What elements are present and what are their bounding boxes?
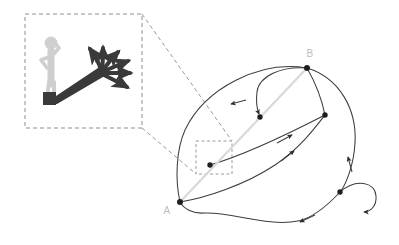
graph-edges [177,67,376,223]
edge-n4-self-loop [340,183,376,212]
edge-n4-A-bottom-arrow [300,215,315,222]
edge-B-A-upper-arrow [231,100,246,104]
shadow-foot-block [43,92,56,105]
edge-A-n3-arrow [281,151,294,161]
edge-n1-n3 [210,115,325,165]
magnified-inset [25,14,142,128]
highlight-mid-arrowhead [234,128,250,145]
node-label-B: B [307,48,314,59]
zoom-target-box [196,141,232,174]
edge-n1-n3-arrow [277,135,292,143]
node-label-A: A [164,205,171,216]
node-A[interactable] [177,199,183,205]
node-n2[interactable] [257,114,262,119]
graph-nodes [177,65,343,205]
edge-A-n3 [180,115,325,202]
zoom-connector-top [142,14,232,141]
edge-B-A-upper [177,67,307,202]
diagram-canvas: A B [0,0,399,245]
shadow-branch-2 [102,48,103,70]
node-n3[interactable] [322,112,327,117]
node-n4[interactable] [337,189,342,194]
zoom-connector-lines [142,14,232,174]
node-n1[interactable] [207,162,212,167]
zoom-connector-bottom [142,128,196,174]
edge-B-n4 [307,68,355,191]
figure-root: A B [0,0,399,245]
node-B[interactable] [304,65,310,71]
